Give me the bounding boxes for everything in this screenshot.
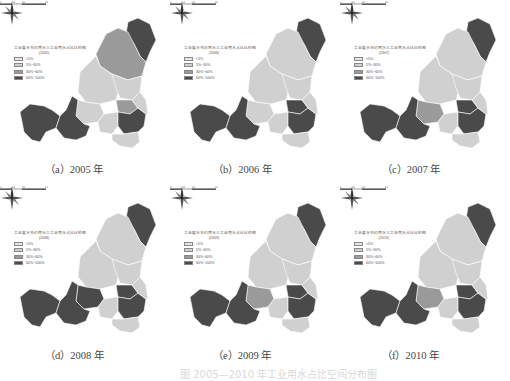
- legend-item: 30%~60%: [14, 255, 86, 259]
- legend-title: 工业废水节约用水三工业用水占比比较图: [184, 231, 256, 236]
- map-panel-c: 工业废水节约用水三工业用水占比比较图(2007)<5%5%~30%30%~60%…: [340, 0, 510, 160]
- legend-item: 60%~100%: [184, 261, 256, 265]
- legend-item: 5%~30%: [14, 63, 86, 67]
- legend-item: <5%: [184, 242, 256, 246]
- svg-text:15: 15: [182, 1, 186, 4]
- legend-label: 30%~60%: [366, 70, 382, 74]
- scale-bar: 0153060: [340, 185, 388, 191]
- legend-year: (2010): [354, 236, 414, 240]
- legend-item: 60%~100%: [354, 76, 426, 80]
- legend-item: 60%~100%: [354, 261, 426, 265]
- legend-swatch: [354, 63, 363, 67]
- legend-item: <5%: [14, 242, 86, 246]
- legend-label: 5%~30%: [26, 248, 41, 252]
- legend-swatch: [354, 57, 363, 61]
- legend-swatch: [14, 76, 23, 80]
- legend-label: <5%: [366, 242, 373, 246]
- legend-item: 30%~60%: [354, 70, 426, 74]
- legend-swatch: [14, 57, 23, 61]
- figure-caption: 图 2005—2010 年工业用水占比空间分布图: [180, 366, 377, 381]
- legend-label: 30%~60%: [196, 255, 212, 259]
- region-south-bottom: [112, 317, 140, 333]
- svg-text:60: 60: [385, 186, 388, 189]
- svg-text:60: 60: [45, 1, 48, 4]
- svg-text:0: 0: [170, 1, 172, 4]
- legend-swatch: [184, 261, 193, 265]
- legend-year: (2009): [184, 236, 244, 240]
- svg-text:15: 15: [352, 186, 356, 189]
- legend-label: 30%~60%: [26, 255, 42, 259]
- legend-item: <5%: [184, 57, 256, 61]
- legend-swatch: [354, 76, 363, 80]
- svg-text:60: 60: [215, 186, 218, 189]
- map-legend: 工业废水节约用水三工业用水占比比较图(2006)<5%5%~30%30%~60%…: [184, 46, 256, 80]
- legend-swatch: [14, 261, 23, 265]
- legend-label: 60%~100%: [26, 261, 44, 265]
- map-legend: 工业废水节约用水三工业用水占比比较图(2010)<5%5%~30%30%~60%…: [354, 231, 426, 265]
- caption-c: （c）2007 年: [382, 161, 440, 176]
- legend-label: 5%~30%: [196, 248, 211, 252]
- legend-year: (2008): [14, 236, 74, 240]
- map-panel-e: 工业废水节约用水三工业用水占比比较图(2009)<5%5%~30%30%~60%…: [170, 185, 340, 345]
- svg-text:60: 60: [215, 1, 218, 4]
- legend-item: 60%~100%: [14, 76, 86, 80]
- legend-year: (2005): [14, 51, 74, 55]
- legend-label: 30%~60%: [26, 70, 42, 74]
- map-panel-a: 工业废水节约用水三工业用水占比比较图(2005)<5%5%~30%30%~60%…: [0, 0, 170, 160]
- svg-text:15: 15: [12, 1, 16, 4]
- legend-item: 30%~60%: [184, 70, 256, 74]
- svg-text:15: 15: [352, 1, 356, 4]
- svg-text:30: 30: [192, 1, 196, 4]
- legend-label: 60%~100%: [366, 261, 384, 265]
- legend-label: 60%~100%: [196, 76, 214, 80]
- legend-item: 5%~30%: [354, 248, 426, 252]
- legend-item: 5%~30%: [14, 248, 86, 252]
- legend-item: <5%: [354, 242, 426, 246]
- legend-swatch: [184, 63, 193, 67]
- svg-text:0: 0: [340, 1, 342, 4]
- legend-title: 工业废水节约用水三工业用水占比比较图: [14, 231, 86, 236]
- region-south-bottom: [282, 132, 310, 148]
- map-legend: 工业废水节约用水三工业用水占比比较图(2009)<5%5%~30%30%~60%…: [184, 231, 256, 265]
- svg-text:15: 15: [12, 186, 16, 189]
- legend-swatch: [354, 248, 363, 252]
- region-west-left: [20, 289, 60, 327]
- caption-d: （d）2008 年: [45, 347, 104, 362]
- region-south-bottom: [282, 317, 310, 333]
- legend-item: 5%~30%: [184, 63, 256, 67]
- svg-text:30: 30: [22, 186, 26, 189]
- legend-label: 5%~30%: [196, 63, 211, 67]
- legend-swatch: [184, 76, 193, 80]
- region-west-left: [360, 104, 400, 142]
- legend-swatch: [354, 242, 363, 246]
- svg-text:30: 30: [22, 1, 26, 4]
- svg-text:30: 30: [192, 186, 196, 189]
- svg-text:60: 60: [45, 186, 48, 189]
- legend-year: (2006): [184, 51, 244, 55]
- legend-label: <5%: [26, 57, 33, 61]
- legend-swatch: [14, 255, 23, 259]
- legend-item: 60%~100%: [184, 76, 256, 80]
- scale-bar: 0153060: [170, 185, 218, 191]
- caption-a: （a）2005 年: [45, 161, 103, 176]
- legend-item: 30%~60%: [184, 255, 256, 259]
- region-west-left: [20, 104, 60, 142]
- region-west-left: [190, 104, 230, 142]
- legend-label: 30%~60%: [196, 70, 212, 74]
- legend-swatch: [14, 242, 23, 246]
- legend-swatch: [184, 242, 193, 246]
- legend-title: 工业废水节约用水三工业用水占比比较图: [14, 46, 86, 51]
- legend-item: <5%: [354, 57, 426, 61]
- legend-item: 30%~60%: [14, 70, 86, 74]
- legend-swatch: [184, 57, 193, 61]
- legend-label: 30%~60%: [366, 255, 382, 259]
- legend-swatch: [184, 248, 193, 252]
- scale-bar: 0153060: [0, 0, 48, 6]
- map-legend: 工业废水节约用水三工业用水占比比较图(2008)<5%5%~30%30%~60%…: [14, 231, 86, 265]
- legend-swatch: [14, 248, 23, 252]
- svg-text:30: 30: [362, 1, 366, 4]
- legend-swatch: [354, 261, 363, 265]
- region-south-bottom: [452, 317, 480, 333]
- scale-bar: 0153060: [340, 0, 388, 6]
- legend-swatch: [354, 70, 363, 74]
